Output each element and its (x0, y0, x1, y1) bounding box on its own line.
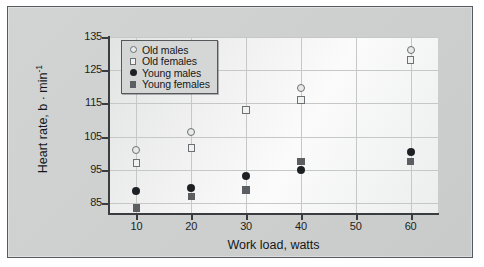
y-axis-tick (102, 70, 109, 72)
y-axis-tick-label: 95 (68, 163, 102, 175)
x-axis-tick-label: 30 (226, 220, 266, 232)
y-axis-tick (102, 37, 109, 39)
data-point (407, 46, 415, 54)
y-axis-tick-label: 115 (68, 96, 102, 108)
data-point (132, 146, 140, 154)
data-point (133, 204, 141, 212)
data-point (407, 148, 415, 156)
data-point (297, 166, 305, 174)
y-axis-tick-label: 135 (68, 30, 102, 42)
marker-glyph (130, 58, 137, 65)
data-point (297, 158, 305, 166)
y-axis-tick (102, 170, 109, 172)
gridline-horizontal (109, 137, 438, 138)
y-axis-tick-label: 125 (68, 63, 102, 75)
y-axis-title-exponent: -1 (34, 65, 44, 73)
gridline-vertical (301, 37, 302, 213)
data-point (407, 56, 415, 64)
data-point (187, 184, 195, 192)
y-axis-tick (102, 203, 109, 205)
legend-marker-circle-open-icon (127, 46, 139, 53)
data-point (297, 96, 305, 104)
legend-item-label: Young females (142, 78, 210, 90)
x-axis-tick (301, 213, 303, 220)
data-point (187, 128, 195, 136)
data-point (188, 193, 196, 201)
data-point (188, 144, 196, 152)
data-point (242, 106, 250, 114)
y-axis-tick-label: 85 (68, 196, 102, 208)
gridline-horizontal (109, 37, 438, 38)
x-axis-tick (356, 213, 358, 220)
data-point (242, 186, 250, 194)
x-axis-tick-label: 60 (391, 220, 431, 232)
legend-item-label: Old females (142, 55, 197, 67)
legend-marker-square-filled-icon (127, 81, 139, 88)
legend-item[interactable]: Old females (127, 56, 210, 68)
gridline-horizontal (109, 103, 438, 104)
legend-item-label: Old males (142, 44, 188, 56)
figure-root: 8595105115125135 102030405060 Work load,… (0, 0, 484, 267)
y-axis-tick-label: 105 (68, 130, 102, 142)
legend-item[interactable]: Young males (127, 67, 210, 79)
y-axis-tick-labels: 8595105115125135 (62, 7, 102, 257)
x-axis-tick (411, 213, 413, 220)
legend-item[interactable]: Old males (127, 44, 210, 56)
data-point (132, 187, 140, 195)
marker-glyph (130, 69, 137, 76)
legend-item[interactable]: Young females (127, 79, 210, 91)
y-axis-tick (102, 137, 109, 139)
data-point (133, 159, 141, 167)
legend: Old malesOld femalesYoung malesYoung fem… (121, 40, 218, 94)
marker-glyph (130, 46, 137, 53)
x-axis-tick-label: 50 (336, 220, 376, 232)
x-axis-spine (108, 213, 439, 215)
x-axis-tick-label: 40 (281, 220, 321, 232)
x-axis-tick (246, 213, 248, 220)
gridline-horizontal (109, 170, 438, 171)
data-point (297, 84, 305, 92)
y-axis-title: Heart rate, b · min-1 (34, 24, 50, 214)
legend-marker-square-open-icon (127, 58, 139, 65)
gridline-horizontal (109, 203, 438, 204)
data-point (242, 172, 250, 180)
x-axis-tick (136, 213, 138, 220)
y-axis-tick (102, 103, 109, 105)
y-axis-spine (108, 36, 110, 215)
marker-glyph (130, 81, 137, 88)
legend-item-label: Young males (142, 67, 201, 79)
x-axis-tick-label: 10 (116, 220, 156, 232)
data-point (407, 158, 415, 166)
y-axis-title-text: Heart rate, b · min (36, 73, 50, 174)
x-axis-tick (191, 213, 193, 220)
x-axis-tick-label: 20 (171, 220, 211, 232)
gridline-vertical (356, 37, 357, 213)
figure-card: 8595105115125135 102030405060 Work load,… (7, 6, 473, 258)
x-axis-title: Work load, watts (109, 238, 438, 252)
legend-marker-circle-filled-icon (127, 69, 139, 76)
